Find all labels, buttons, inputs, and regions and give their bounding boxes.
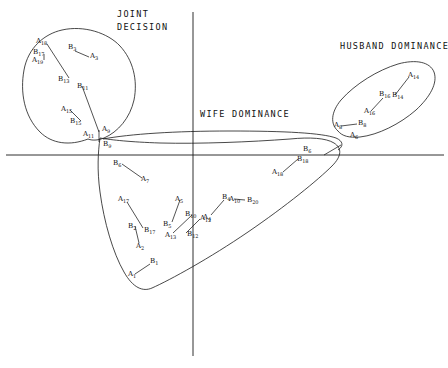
point-B6r: B6 [303, 146, 311, 153]
point-B11: B11 [77, 83, 88, 90]
point-A10: A10 [229, 196, 240, 203]
point-A9: A9 [102, 126, 110, 133]
point-subscript: 10 [190, 213, 196, 219]
point-subscript: 15 [66, 108, 72, 114]
conn-a5-b5 [172, 200, 180, 222]
point-A1: A1 [128, 271, 136, 278]
point-B13: B13 [58, 76, 69, 83]
point-B16: B16 [379, 91, 390, 98]
point-subscript: 15 [75, 120, 81, 126]
point-subscript: 17 [38, 51, 44, 57]
region-label-wife-dominance: WIFE DOMINANCE [200, 108, 290, 121]
region-label-line: DECISION [117, 21, 168, 34]
point-subscript: 11 [82, 85, 88, 91]
point-subscript: 14 [397, 94, 403, 100]
region-label-line: WIFE DOMINANCE [200, 108, 290, 121]
point-subscript: 18 [41, 40, 47, 46]
point-B20: B20 [247, 197, 258, 204]
connector-lines-group [44, 44, 409, 274]
point-subscript: 8 [363, 122, 366, 128]
point-B6: B6 [113, 160, 121, 167]
point-B3: B3 [68, 44, 76, 51]
point-A7: A7 [141, 176, 149, 183]
point-subscript: 17 [149, 229, 155, 235]
point-A4: A4 [203, 214, 211, 221]
point-A18: A18 [36, 38, 47, 45]
point-subscript: 9 [107, 128, 110, 134]
conn-a18-b13 [47, 44, 69, 78]
conn-b3-a3 [75, 51, 89, 57]
region-label-line: HUSBAND DOMINANCE [340, 40, 448, 53]
cluster-outlines-group [23, 28, 435, 289]
point-subscript: 12 [192, 233, 198, 239]
point-subscript: 2 [133, 225, 136, 231]
point-subscript: 11 [88, 133, 94, 139]
point-B18: B18 [297, 156, 308, 163]
point-subscript: 13 [170, 234, 176, 240]
point-B2: B2 [128, 223, 136, 230]
point-B8: B8 [358, 120, 366, 127]
point-subscript: 9 [108, 143, 111, 149]
point-subscript: 8 [339, 124, 342, 130]
point-B14: B14 [392, 92, 403, 99]
point-subscript: 7 [146, 178, 149, 184]
point-A13: A13 [165, 232, 176, 239]
region-label-husband-dominance: HUSBAND DOMINANCE [340, 40, 448, 53]
conn-b11-a11 [82, 86, 99, 132]
point-subscript: 16 [384, 93, 390, 99]
point-B17: B17 [33, 49, 44, 56]
point-subscript: 10 [234, 198, 240, 204]
point-subscript: 5 [180, 198, 183, 204]
point-subscript: 1 [133, 273, 136, 279]
point-subscript: 18 [302, 158, 308, 164]
conn-a4-b4 [211, 200, 224, 215]
point-subscript: 1 [155, 260, 158, 266]
point-A3: A3 [90, 53, 98, 60]
point-B10: B10 [185, 211, 196, 218]
point-subscript: 6 [355, 134, 358, 140]
point-subscript: 2 [141, 245, 144, 251]
point-A19: A19 [32, 57, 43, 64]
point-subscript: 18 [277, 171, 283, 177]
point-A11: A11 [83, 131, 94, 138]
point-subscript: 20 [252, 199, 258, 205]
point-A17: A17 [118, 196, 129, 203]
point-A5: A5 [175, 196, 183, 203]
point-subscript: 13 [63, 78, 69, 84]
conn-a1-b1 [135, 264, 150, 274]
point-A2: A2 [136, 243, 144, 250]
region-label-joint-decision: JOINTDECISION [117, 8, 168, 34]
point-subscript: 4 [208, 216, 211, 222]
point-subscript: 3 [73, 46, 76, 52]
husband-dominance-cluster [333, 62, 435, 138]
point-A8: A8 [334, 122, 342, 129]
point-B9: B9 [103, 141, 111, 148]
axes-group [6, 12, 444, 356]
point-A18r: A18 [272, 169, 283, 176]
point-subscript: 16 [369, 110, 375, 116]
point-subscript: 6 [308, 148, 311, 154]
point-subscript: 6 [118, 162, 121, 168]
point-A14: A14 [408, 72, 419, 79]
conn-a8-b8 [341, 124, 357, 126]
scatter-plot-figure: JOINTDECISIONHUSBAND DOMINANCEWIFE DOMIN… [0, 0, 448, 368]
point-subscript: 3 [95, 55, 98, 61]
point-subscript: 5 [168, 223, 171, 229]
point-subscript: 14 [413, 74, 419, 80]
point-A15: A15 [61, 106, 72, 113]
conn-a18-b18 [283, 159, 298, 172]
region-label-line: JOINT [117, 8, 168, 21]
point-B15: B15 [70, 118, 81, 125]
point-B12: B12 [187, 231, 198, 238]
point-B1: B1 [150, 258, 158, 265]
plot-canvas [0, 0, 448, 368]
point-A16: A16 [364, 108, 375, 115]
point-subscript: 17 [123, 198, 129, 204]
point-subscript: 19 [37, 59, 43, 65]
point-B17b: B17 [144, 227, 155, 234]
conn-b6-a7 [122, 164, 142, 178]
point-A6: A6 [350, 132, 358, 139]
point-B5: B5 [163, 221, 171, 228]
